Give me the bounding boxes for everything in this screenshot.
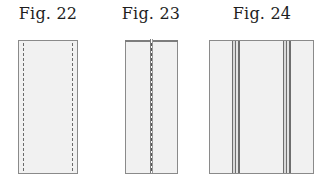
fabric-strip-center-seam <box>125 40 178 174</box>
figure-24-caption: Fig. 24 <box>222 4 302 23</box>
fabric-strip-dashed-edges <box>18 40 78 174</box>
seam-stitch-line <box>151 43 152 171</box>
fabric-panel-two-stripes <box>209 40 314 174</box>
figure-23-caption: Fig. 23 <box>111 4 191 23</box>
stripe-right <box>283 41 291 173</box>
center-seam <box>150 39 153 173</box>
stripe-left <box>232 41 240 173</box>
stitch-line-left <box>23 43 24 171</box>
figure-22-caption: Fig. 22 <box>8 4 88 23</box>
stitch-line-right <box>72 43 73 171</box>
